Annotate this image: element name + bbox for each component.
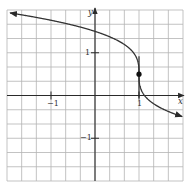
x-tick-label-neg1: −1	[47, 99, 59, 108]
y-tick-label-neg1: −1	[80, 133, 92, 142]
y-axis-label: y	[87, 7, 93, 17]
x-axis-label: x	[178, 96, 183, 106]
x-tick-label-1: 1	[137, 99, 142, 108]
y-tick-label-1: 1	[85, 48, 90, 57]
cube-root-graph: y x −1 1 1 −1	[0, 0, 190, 187]
highlighted-point	[136, 72, 141, 77]
